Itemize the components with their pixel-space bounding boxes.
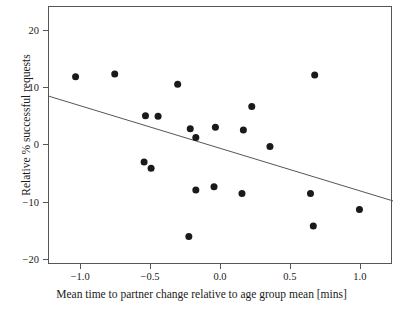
- y-tick-mark: [43, 87, 48, 88]
- x-tick-label: 0.0: [213, 271, 226, 282]
- y-axis-title: Relative % successful requests: [20, 35, 32, 215]
- data-points: [72, 70, 363, 239]
- data-point: [72, 73, 79, 80]
- x-tick-label: −1.0: [71, 271, 90, 282]
- data-point: [174, 81, 181, 88]
- data-point: [111, 70, 118, 77]
- data-point: [192, 187, 199, 194]
- trend-line: [49, 96, 393, 201]
- x-tick-label: 1.0: [353, 271, 366, 282]
- x-tick-mark: [290, 264, 291, 269]
- data-point: [185, 233, 192, 240]
- data-point: [142, 112, 149, 119]
- data-point: [240, 126, 247, 133]
- x-tick-mark: [220, 264, 221, 269]
- data-point: [266, 143, 273, 150]
- data-point: [311, 72, 318, 79]
- y-tick-label: −20: [0, 253, 39, 264]
- x-axis-title: Mean time to partner change relative to …: [0, 288, 403, 300]
- data-point: [238, 190, 245, 197]
- y-tick-mark: [43, 259, 48, 260]
- x-tick-label: 0.5: [283, 271, 296, 282]
- plot-area: [48, 6, 392, 264]
- plot-canvas: [49, 7, 393, 265]
- data-point: [148, 165, 155, 172]
- data-point: [212, 124, 219, 131]
- data-point: [248, 103, 255, 110]
- y-tick-mark: [43, 30, 48, 31]
- x-tick-mark: [150, 264, 151, 269]
- data-point: [310, 223, 317, 230]
- data-point: [211, 183, 218, 190]
- data-point: [307, 190, 314, 197]
- data-point: [192, 134, 199, 141]
- x-tick-label: −0.5: [141, 271, 160, 282]
- y-tick-label: 20: [0, 25, 39, 36]
- x-tick-mark: [80, 264, 81, 269]
- data-point: [141, 159, 148, 166]
- y-tick-mark: [43, 202, 48, 203]
- y-tick-mark: [43, 144, 48, 145]
- regression-line: [49, 96, 393, 201]
- data-point: [187, 125, 194, 132]
- data-point: [356, 206, 363, 213]
- data-point: [155, 113, 162, 120]
- scatter-plot-figure: 20100−10−20 −1.0−0.50.00.51.0 Relative %…: [0, 0, 403, 310]
- x-tick-mark: [360, 264, 361, 269]
